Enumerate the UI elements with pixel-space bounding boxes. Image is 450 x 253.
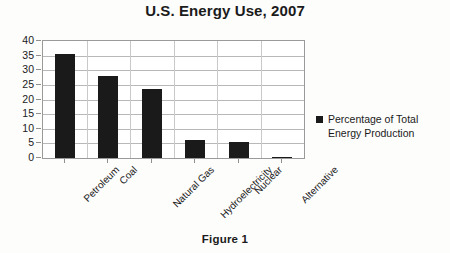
x-tick-mark	[107, 159, 108, 163]
y-tick-mark	[36, 55, 41, 56]
figure-caption: Figure 1	[0, 233, 450, 245]
y-tick-mark	[36, 84, 41, 85]
legend-label-line2: Energy Production	[328, 127, 414, 139]
y-tick-mark	[36, 99, 41, 100]
x-tick-label: Hydroelectricity	[218, 164, 274, 220]
x-tick-label: Petroleum	[81, 164, 121, 204]
y-tick-label: 5	[28, 137, 34, 148]
y-tick-label: 25	[22, 79, 34, 90]
legend-item: Percentage of Total Energy Production	[316, 112, 448, 140]
y-tick-label: 35	[22, 50, 34, 61]
category-separator	[261, 41, 262, 158]
y-tick-label: 15	[22, 108, 34, 119]
square-marker-icon	[316, 116, 323, 123]
x-tick-mark	[64, 159, 65, 163]
chart-title: U.S. Energy Use, 2007	[0, 2, 450, 19]
category-separator	[174, 41, 175, 158]
x-tick-mark	[194, 159, 195, 163]
x-tick-mark	[281, 159, 282, 163]
y-tick-label: 30	[22, 64, 34, 75]
y-tick-label: 40	[22, 35, 34, 46]
y-tick-mark	[36, 113, 41, 114]
x-tick-label: Natural Gas	[171, 164, 217, 210]
x-axis: PetroleumCoalNatural GasHydroelectricity…	[42, 160, 305, 222]
x-tick-label: Alternative	[299, 164, 340, 205]
plot-area	[42, 40, 305, 159]
bar	[142, 89, 162, 158]
y-axis: 0510152025303540	[0, 40, 38, 159]
category-separator	[87, 41, 88, 158]
x-tick-mark	[151, 159, 152, 163]
figure-container: U.S. Energy Use, 2007 0510152025303540 P…	[0, 0, 450, 253]
y-tick-label: 10	[22, 123, 34, 134]
bar	[185, 140, 205, 158]
x-tick-label: Coal	[117, 164, 139, 186]
y-tick-mark	[36, 142, 41, 143]
y-tick-label: 20	[22, 94, 34, 105]
bar	[55, 54, 75, 158]
bar	[98, 76, 118, 158]
legend-label: Percentage of Total Energy Production	[328, 112, 418, 140]
legend-label-line1: Percentage of Total	[328, 113, 418, 125]
x-tick-mark	[238, 159, 239, 163]
category-separator	[217, 41, 218, 158]
y-tick-mark	[36, 40, 41, 41]
y-tick-label: 0	[28, 152, 34, 163]
y-tick-mark	[36, 69, 41, 70]
category-separator	[130, 41, 131, 158]
bar	[229, 142, 249, 158]
y-tick-mark	[36, 157, 41, 158]
y-tick-mark	[36, 128, 41, 129]
bar	[272, 157, 292, 158]
chart-legend: Percentage of Total Energy Production	[316, 112, 448, 140]
